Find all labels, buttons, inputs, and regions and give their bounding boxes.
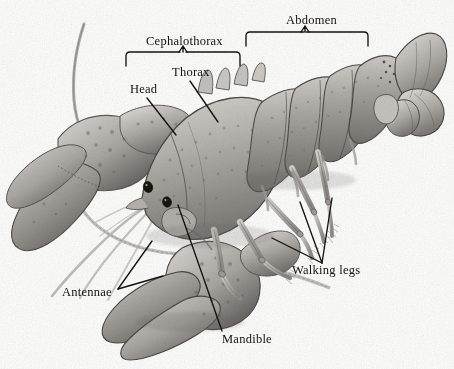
label-thorax: Thorax bbox=[172, 66, 210, 79]
label-antennae: Antennae bbox=[62, 286, 112, 299]
label-walking-legs: Walking legs bbox=[292, 264, 360, 277]
label-mandible: Mandible bbox=[222, 333, 272, 346]
lobster-illustration bbox=[0, 0, 454, 369]
label-cephalothorax: Cephalothorax bbox=[146, 35, 223, 48]
label-head: Head bbox=[130, 83, 157, 96]
lobster-anatomy-figure: Abdomen Cephalothorax Thorax Head Walkin… bbox=[0, 0, 454, 369]
label-abdomen: Abdomen bbox=[286, 14, 337, 27]
